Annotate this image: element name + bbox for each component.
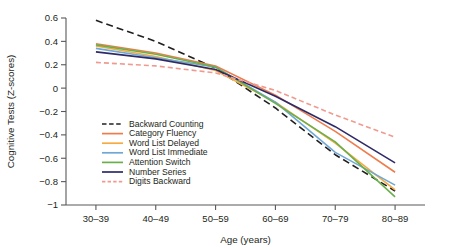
x-tick-label: 40–49	[143, 213, 169, 224]
x-axis-ticks: 30–3940–4950–5960–6970–7980–89	[83, 205, 409, 224]
y-tick-label: −1	[47, 199, 58, 210]
y-tick-label: −0.4	[39, 129, 58, 140]
y-tick-label: 0.2	[45, 59, 58, 70]
line-chart: 0.60.40.20−0.2−0.4−0.6−0.8−1 30–3940–495…	[0, 0, 452, 250]
x-tick-label: 70–79	[322, 213, 348, 224]
chart-figure: 0.60.40.20−0.2−0.4−0.6−0.8−1 30–3940–495…	[0, 0, 452, 250]
legend-label: Digits Backward	[129, 176, 191, 186]
y-tick-label: 0.6	[45, 12, 58, 23]
legend-label: Category Fluency	[129, 128, 197, 138]
y-tick-label: 0	[53, 83, 58, 94]
y-tick-label: −0.8	[39, 176, 58, 187]
y-tick-label: 0.4	[45, 36, 58, 47]
chart-legend: Backward CountingCategory FluencyWord Li…	[102, 119, 208, 187]
legend-label: Attention Switch	[129, 157, 191, 167]
x-tick-label: 30–39	[83, 213, 109, 224]
y-axis-ticks: 0.60.40.20−0.2−0.4−0.6−0.8−1	[39, 12, 66, 210]
x-axis-title: Age (years)	[220, 234, 271, 245]
legend-label: Backward Counting	[129, 119, 204, 129]
x-tick-label: 80–89	[382, 213, 408, 224]
legend-label: Number Series	[129, 167, 186, 177]
x-tick-label: 50–59	[202, 213, 228, 224]
legend-label: Word List Immediate	[129, 147, 208, 157]
x-tick-label: 60–69	[262, 213, 288, 224]
y-tick-label: −0.2	[39, 106, 58, 117]
y-tick-label: −0.6	[39, 153, 58, 164]
y-axis-title: Cognitive Tests (Z-scores)	[5, 55, 16, 169]
legend-label: Word List Delayed	[129, 138, 199, 148]
